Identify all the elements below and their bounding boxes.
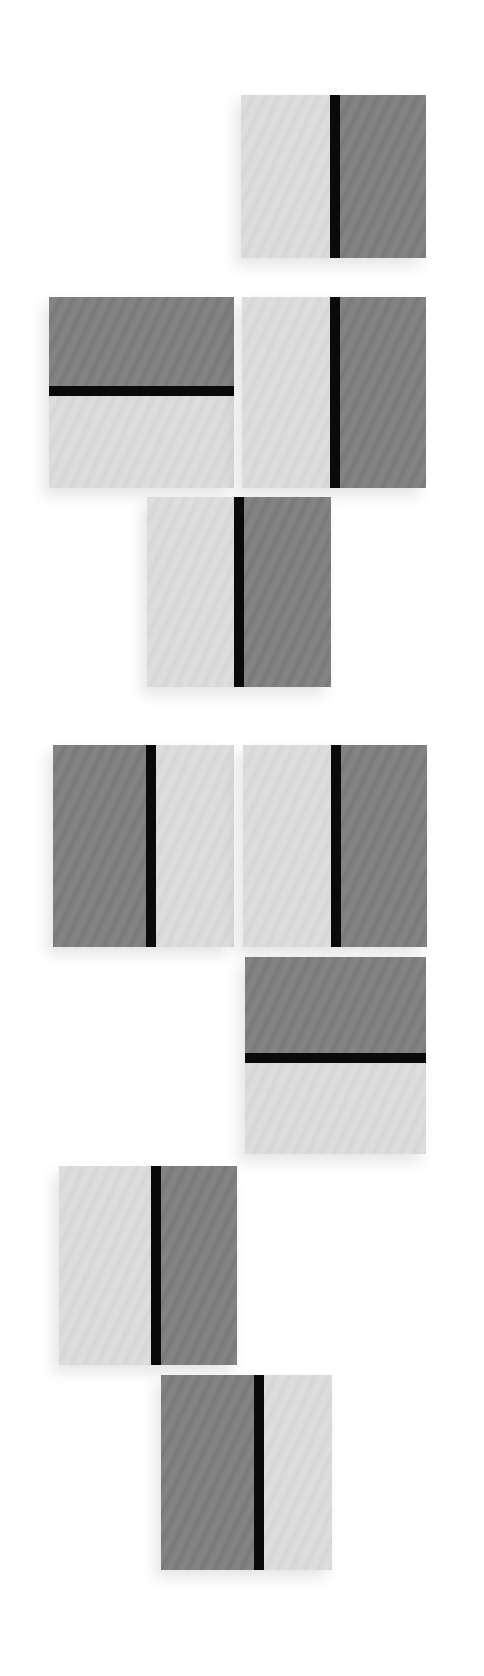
light-half (241, 95, 330, 258)
dark-half (245, 957, 426, 1053)
black-divider-bar (245, 1053, 426, 1063)
art-panel-5 (53, 745, 234, 947)
art-panel-7 (245, 957, 426, 1154)
art-panel-3 (242, 297, 426, 488)
light-half (147, 497, 234, 687)
dark-half (244, 497, 331, 687)
art-panel-9 (161, 1375, 332, 1570)
light-half (59, 1166, 151, 1365)
black-divider-bar (330, 297, 340, 488)
art-panel-2 (49, 297, 234, 488)
dark-half (49, 297, 234, 386)
light-half (156, 745, 234, 947)
light-half (49, 396, 234, 488)
black-divider-bar (146, 745, 156, 947)
black-divider-bar (234, 497, 244, 687)
black-divider-bar (254, 1375, 264, 1570)
dark-half (340, 297, 426, 488)
dark-half (341, 745, 427, 947)
light-half (264, 1375, 332, 1570)
art-panel-4 (147, 497, 331, 687)
black-divider-bar (331, 745, 341, 947)
light-half (245, 1063, 426, 1154)
art-panel-6 (243, 745, 427, 947)
black-divider-bar (49, 386, 234, 396)
light-half (242, 297, 330, 488)
dark-half (161, 1375, 254, 1570)
black-divider-bar (151, 1166, 161, 1365)
art-panel-1 (241, 95, 426, 258)
art-panel-8 (59, 1166, 237, 1365)
dark-half (53, 745, 146, 947)
dark-half (340, 95, 426, 258)
dark-half (161, 1166, 237, 1365)
black-divider-bar (330, 95, 340, 258)
light-half (243, 745, 331, 947)
